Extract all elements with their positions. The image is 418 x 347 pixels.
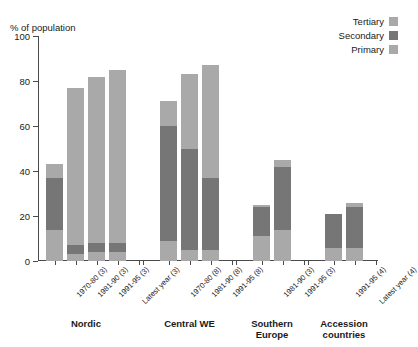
x-tick-mark: [169, 261, 170, 265]
bar-segment-primary: [67, 254, 84, 261]
bar-segment-tertiary: [109, 70, 126, 243]
bar-segment-secondary: [181, 149, 198, 250]
bar-10[interactable]: [346, 203, 363, 262]
bar-segment-tertiary: [67, 88, 84, 246]
bar-segment-primary: [181, 250, 198, 261]
x-tick-mark: [190, 261, 191, 265]
bar-segment-primary: [346, 248, 363, 262]
bar-segment-tertiary: [202, 65, 219, 178]
bar-segment-primary: [202, 250, 219, 261]
y-tick-label: 20: [19, 211, 30, 222]
legend-swatch-primary: [389, 45, 398, 54]
bar-segment-tertiary: [46, 164, 63, 178]
bar-6[interactable]: [202, 65, 219, 261]
group-label-nordic: Nordic: [41, 318, 131, 329]
y-axis-line: [38, 36, 39, 261]
bar-segment-primary: [46, 230, 63, 262]
bar-segment-primary: [88, 252, 105, 261]
bar-4[interactable]: [160, 101, 177, 261]
x-tick-mark: [334, 261, 335, 265]
bar-segment-tertiary: [274, 160, 291, 167]
y-tick-mark: [33, 36, 38, 37]
y-tick-label: 80: [19, 76, 30, 87]
x-group-separator-tick: [376, 261, 377, 265]
bar-0[interactable]: [46, 164, 63, 261]
bar-8[interactable]: [274, 160, 291, 261]
bar-segment-secondary: [202, 178, 219, 250]
y-tick-label: 40: [19, 166, 30, 177]
x-group-separator-tick: [304, 261, 305, 265]
legend-swatch-secondary: [389, 31, 398, 40]
x-tick-mark: [283, 261, 284, 265]
group-label-accession-countries: Accession countries: [299, 318, 389, 340]
bar-segment-secondary: [88, 243, 105, 252]
bar-segment-primary: [325, 248, 342, 262]
bar-1[interactable]: [67, 88, 84, 261]
x-tick-mark: [355, 261, 356, 265]
y-tick-label: 0: [25, 256, 30, 267]
bar-5[interactable]: [181, 74, 198, 261]
bar-segment-secondary: [274, 167, 291, 230]
x-group-separator-tick: [232, 261, 233, 265]
bar-segment-secondary: [325, 214, 342, 248]
bar-3[interactable]: [109, 70, 126, 261]
y-tick-mark: [33, 261, 38, 262]
bar-segment-secondary: [67, 245, 84, 254]
x-group-separator-tick: [139, 261, 140, 265]
plot-area: 020406080100 1970-80 (3)1981-90 (3)1991-…: [38, 36, 378, 261]
bar-segment-tertiary: [160, 101, 177, 126]
bar-segment-primary: [274, 230, 291, 262]
x-tick-mark: [211, 261, 212, 265]
x-tick-mark: [55, 261, 56, 265]
bar-segment-secondary: [160, 126, 177, 241]
legend-swatch-tertiary: [389, 17, 398, 26]
y-tick-label: 60: [19, 121, 30, 132]
y-tick-label: 100: [14, 31, 30, 42]
y-tick-mark: [33, 171, 38, 172]
bar-7[interactable]: [253, 205, 270, 261]
legend-label-tertiary: Tertiary: [353, 16, 384, 27]
bar-segment-secondary: [46, 178, 63, 230]
bar-segment-secondary: [253, 207, 270, 236]
x-tick-mark: [262, 261, 263, 265]
y-tick-mark: [33, 126, 38, 127]
bar-segment-primary: [160, 241, 177, 261]
bar-segment-tertiary: [88, 77, 105, 244]
bar-9[interactable]: [325, 214, 342, 261]
x-tick-mark: [76, 261, 77, 265]
group-label-central-we: Central WE: [145, 318, 235, 329]
y-tick-mark: [33, 216, 38, 217]
y-tick-mark: [33, 81, 38, 82]
x-tick-mark: [97, 261, 98, 265]
bar-segment-primary: [253, 236, 270, 261]
x-tick-mark: [118, 261, 119, 265]
bar-segment-secondary: [109, 243, 126, 252]
bar-segment-primary: [109, 252, 126, 261]
bar-segment-secondary: [346, 207, 363, 248]
bar-2[interactable]: [88, 77, 105, 262]
bar-segment-tertiary: [181, 74, 198, 148]
legend-item-tertiary[interactable]: Tertiary: [353, 16, 398, 27]
